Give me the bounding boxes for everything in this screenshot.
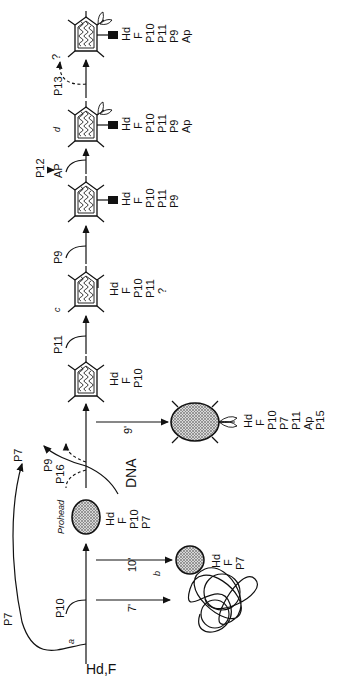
svg-text:P10: P10 [128, 509, 140, 529]
svg-text:F: F [222, 559, 234, 566]
svg-text:F: F [120, 377, 132, 384]
svg-text:Hd: Hd [108, 282, 120, 296]
svg-text:F: F [116, 517, 128, 524]
prohead-components: Hd F P10 P7 [104, 509, 152, 529]
svg-text:P7: P7 [278, 417, 290, 430]
svg-text:Hd: Hd [104, 512, 116, 526]
p9b-curve [66, 246, 86, 258]
svg-text:P9: P9 [168, 30, 180, 43]
branch-7-time: 7' [126, 604, 138, 612]
p7-loop-start-label: P7 [2, 613, 14, 626]
oval-tailspikes [219, 417, 237, 428]
svg-text:Hd: Hd [120, 27, 132, 41]
svg-text:P9: P9 [168, 195, 180, 208]
capsid-1 [68, 356, 104, 402]
p10-curve [66, 600, 86, 614]
svg-text:Ap: Ap [180, 120, 192, 133]
svg-text:Hd: Hd [120, 117, 132, 131]
svg-text:P10: P10 [144, 23, 156, 43]
svg-text:F: F [132, 197, 144, 204]
svg-text:P11: P11 [156, 114, 168, 133]
p9-label: P9 [42, 459, 54, 472]
capsid-4-letter: d [52, 126, 62, 132]
p9b-label: P9 [52, 251, 64, 264]
capsid-3-components: Hd F P10 P11 P9 [120, 188, 180, 208]
dna-dashed-exit [66, 444, 86, 462]
svg-text:F: F [132, 32, 144, 39]
svg-text:P7: P7 [140, 516, 152, 529]
svg-text:P10: P10 [266, 410, 278, 430]
svg-text:P7: P7 [234, 557, 246, 570]
capsid-5-tailspikes [98, 12, 112, 25]
svg-text:P15: P15 [314, 410, 326, 430]
svg-text:P11: P11 [156, 189, 168, 208]
capsid-4-components: Hd F P10 P11 P9 Ap [120, 113, 192, 133]
svg-text:P11: P11 [144, 279, 156, 298]
prohead-label: Prohead [56, 499, 66, 534]
capsid-2-components: Hd F P10 P11 ? [108, 278, 168, 298]
tangled-filament [188, 568, 257, 632]
oval-shape [171, 403, 219, 441]
ap-curve [66, 160, 86, 172]
svg-text:Ap: Ap [180, 30, 192, 43]
p11-curve [66, 336, 86, 348]
svg-text:P10: P10 [132, 368, 144, 388]
svg-text:P10: P10 [132, 278, 144, 298]
capsid-1-components: Hd F P10 [108, 368, 144, 388]
p13-question: ? [50, 54, 62, 60]
capsid-5-components: Hd F P10 P11 P9 Ap [120, 23, 192, 43]
capsid-3 [68, 176, 104, 222]
svg-text:P9: P9 [168, 120, 180, 133]
diagram-canvas: Hd,F a P7 P7 P10 Prohead Hd F P10 P7 P9 … [0, 0, 345, 684]
svg-text:F: F [120, 287, 132, 294]
sphere-shape [176, 546, 204, 574]
svg-text:F: F [132, 122, 144, 129]
svg-text:?: ? [156, 288, 168, 294]
start-superscript: a [66, 639, 76, 644]
oval-components: Hd F P10 P7 P11 Ap P15 [242, 410, 326, 430]
ap-label: AP [52, 163, 64, 178]
p10-label: P10 [54, 598, 66, 618]
capsid-4-tail-block [108, 121, 118, 129]
svg-text:F: F [254, 419, 266, 426]
svg-text:Ap: Ap [302, 417, 314, 430]
capsid-2 [68, 266, 104, 312]
svg-text:P11: P11 [290, 411, 302, 430]
branch-7-superscript: b [152, 571, 162, 576]
svg-text:Hd: Hd [120, 192, 132, 206]
p11-label: P11 [52, 335, 64, 354]
branch-10-time: 10' [126, 558, 138, 572]
p9-p16-dashed-curve [66, 470, 86, 488]
branch-9-time: 9' [122, 426, 134, 434]
prohead-shape [72, 500, 100, 534]
svg-text:Hd: Hd [210, 554, 222, 568]
sphere-components: Hd F P7 [210, 554, 246, 570]
p16-label: P16 [54, 464, 66, 484]
capsid-4-tailspikes [98, 102, 112, 115]
dna-label: DNA [123, 458, 139, 488]
start-label: Hd,F [86, 661, 116, 677]
p7-loop-arrow [13, 464, 86, 650]
svg-text:Hd: Hd [108, 372, 120, 386]
p12-label: P12 [34, 158, 46, 178]
svg-text:P10: P10 [144, 113, 156, 133]
p7-loop-end-label: P7 [12, 449, 24, 462]
capsid-3-tail-block [108, 196, 118, 204]
capsid-2-letter: c [52, 307, 62, 312]
svg-text:P11: P11 [156, 24, 168, 43]
p13-label: P13 [52, 76, 64, 96]
svg-text:Hd: Hd [242, 414, 254, 428]
capsid-5-tail-block [108, 31, 118, 39]
svg-text:P10: P10 [144, 188, 156, 208]
